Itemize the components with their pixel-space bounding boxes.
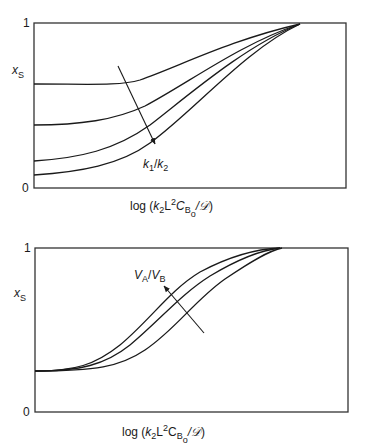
bottom-vavb-arrow xyxy=(164,286,204,333)
top-y-tick-1: 1 xyxy=(23,16,30,30)
bottom-y-axis-label: xS xyxy=(13,286,26,303)
figure: 1 0 xS k1/k2 log (k2L2CBo/𝒟) 1 0 xS xyxy=(0,0,368,447)
top-k1k2-label: k1/k2 xyxy=(143,157,168,173)
top-x-axis-label: log (k2L2CBo/𝒟) xyxy=(130,197,213,219)
top-chart: 1 0 xS k1/k2 log (k2L2CBo/𝒟) xyxy=(11,16,346,219)
bottom-curve-3 xyxy=(35,248,282,371)
bottom-y-tick-0: 0 xyxy=(23,405,30,419)
bottom-y-tick-1: 1 xyxy=(24,241,31,255)
bottom-x-axis-label: log (k2L2CBo/𝒟) xyxy=(122,423,205,445)
bottom-curves xyxy=(35,248,282,371)
top-y-tick-0: 0 xyxy=(22,181,29,195)
top-curves xyxy=(34,24,300,175)
top-y-axis-label: xS xyxy=(11,63,24,80)
bottom-chart: 1 0 xS VA/VB log (k2L2CBo/𝒟) xyxy=(13,241,348,445)
bottom-vavb-label: VA/VB xyxy=(134,268,165,284)
top-curve-4 xyxy=(34,24,300,175)
top-k1k2-arrow xyxy=(118,66,155,144)
top-curve-2 xyxy=(34,24,300,125)
top-chart-frame xyxy=(34,23,346,188)
top-curve-3 xyxy=(34,24,300,161)
bottom-chart-frame xyxy=(35,248,348,412)
top-curve-1 xyxy=(34,24,300,84)
